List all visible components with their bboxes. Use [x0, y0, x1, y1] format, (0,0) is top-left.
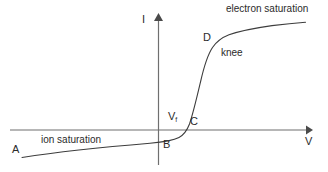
point-label-d: D [203, 32, 211, 43]
point-label-c: C [190, 116, 198, 127]
ion-saturation-label: ion saturation [41, 135, 101, 145]
floating-potential-subscript: f [175, 116, 177, 123]
point-label-a: A [12, 144, 19, 155]
floating-potential-label: Vf [168, 111, 177, 122]
iv-characteristic-figure: I V A B C D Vf ion saturation knee elect… [0, 0, 328, 172]
electron-saturation-label: electron saturation [226, 4, 308, 14]
point-label-b: B [163, 139, 170, 150]
y-axis-arrowhead [154, 13, 163, 21]
y-axis-label: I [142, 14, 145, 25]
x-axis-label: V [305, 136, 312, 147]
knee-label: knee [221, 48, 243, 58]
x-axis-arrowhead [306, 126, 313, 135]
